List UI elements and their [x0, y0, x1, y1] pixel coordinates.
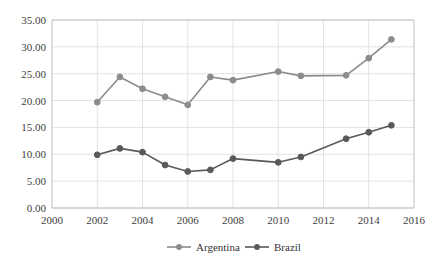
series-brazil [94, 122, 394, 174]
x-tick-label: 2006 [177, 214, 200, 226]
data-point-marker [388, 36, 394, 42]
data-point-marker [343, 136, 349, 142]
data-point-marker [298, 154, 304, 160]
data-point-marker [94, 152, 100, 158]
data-point-marker [343, 72, 349, 78]
x-tick-label: 2004 [132, 214, 155, 226]
chart-canvas: 0.005.0010.0015.0020.0025.0030.0035.0020… [0, 0, 441, 267]
data-point-marker [140, 86, 146, 92]
x-tick-label: 2010 [267, 214, 290, 226]
y-tick-label: 20.00 [21, 95, 46, 107]
series-line [97, 39, 391, 105]
legend-marker-swatch [176, 244, 182, 250]
data-point-marker [185, 169, 191, 175]
series-line [97, 125, 391, 171]
y-tick-label: 25.00 [21, 68, 46, 80]
x-tick-label: 2016 [403, 214, 426, 226]
legend-marker-swatch [254, 244, 260, 250]
data-point-marker [207, 167, 213, 173]
data-point-marker [94, 99, 100, 105]
x-tick-label: 2012 [313, 214, 335, 226]
legend-item-brazil[interactable]: Brazil [245, 241, 301, 253]
line-chart: 0.005.0010.0015.0020.0025.0030.0035.0020… [0, 0, 441, 267]
data-point-marker [185, 102, 191, 108]
data-point-marker [162, 162, 168, 168]
x-tick-label: 2008 [222, 214, 245, 226]
data-point-marker [388, 122, 394, 128]
y-tick-label: 15.00 [21, 121, 46, 133]
x-tick-label: 2014 [358, 214, 381, 226]
x-tick-label: 2002 [86, 214, 108, 226]
data-point-marker [207, 74, 213, 80]
x-tick-label: 2000 [41, 214, 64, 226]
y-tick-label: 10.00 [21, 148, 46, 160]
series-group [94, 36, 394, 174]
data-point-marker [230, 77, 236, 83]
legend-label: Argentina [196, 241, 240, 253]
y-axis-tick-labels: 0.005.0010.0015.0020.0025.0030.0035.00 [21, 14, 46, 214]
data-point-marker [117, 74, 123, 80]
legend-label: Brazil [274, 241, 301, 253]
data-point-marker [366, 55, 372, 61]
legend: ArgentinaBrazil [167, 241, 301, 253]
legend-item-argentina[interactable]: Argentina [167, 241, 240, 253]
data-point-marker [298, 73, 304, 79]
data-point-marker [162, 94, 168, 100]
y-tick-label: 5.00 [27, 175, 47, 187]
y-tick-label: 35.00 [21, 14, 46, 26]
data-point-marker [366, 129, 372, 135]
data-point-marker [275, 69, 281, 75]
data-point-marker [230, 156, 236, 162]
y-tick-label: 30.00 [21, 41, 46, 53]
data-point-marker [275, 159, 281, 165]
data-point-marker [117, 145, 123, 151]
data-point-marker [140, 149, 146, 155]
grid-lines [52, 20, 414, 208]
y-tick-label: 0.00 [27, 202, 47, 214]
x-axis-tick-labels: 200020022004200620082010201220142016 [41, 214, 426, 226]
